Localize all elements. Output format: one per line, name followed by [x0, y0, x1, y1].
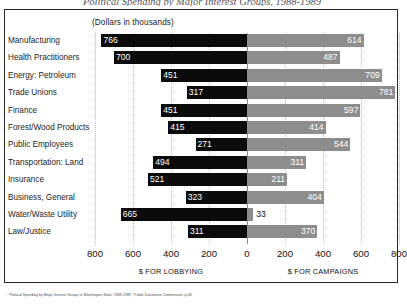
x-tick-label: 200: [201, 248, 217, 260]
campaigns-value: 709: [365, 69, 379, 82]
lobbying-value: 700: [116, 51, 130, 64]
campaigns-bar: 487: [247, 51, 340, 64]
lobbying-bar: 317: [187, 86, 247, 99]
lobbying-value: 311: [190, 225, 204, 238]
campaigns-bar: 544: [247, 138, 350, 151]
lobbying-bar: 700: [114, 51, 247, 64]
footnote: ¹ "Political Spending by Major Interest …: [6, 292, 398, 298]
campaigns-bar: 370: [247, 225, 317, 238]
category-label: Transportation: Land: [8, 156, 102, 169]
lobbying-bar: 665: [121, 208, 247, 221]
category-label: Energy: Petroleum: [8, 69, 102, 82]
lobbying-value: 451: [163, 69, 177, 82]
lobbying-bar: 521: [148, 173, 247, 186]
lobbying-value: 323: [188, 191, 202, 204]
lobbying-bar: 766: [101, 34, 247, 47]
bar-row: 766614: [104, 34, 398, 47]
bar-row: 700487: [104, 51, 398, 64]
category-label: Trade Unions: [8, 86, 102, 99]
lobbying-value: 415: [170, 121, 184, 134]
lobbying-bar: 494: [153, 156, 247, 169]
campaigns-value: 597: [344, 104, 358, 117]
category-label: Water/Waste Utility: [8, 208, 102, 221]
bar-row: 311370: [104, 225, 398, 238]
bar-row: 323404: [104, 191, 398, 204]
lobbying-value: 451: [163, 104, 177, 117]
campaigns-value: 487: [323, 51, 337, 64]
category-label: Insurance: [8, 173, 102, 186]
lobbying-bar: 451: [161, 104, 247, 117]
campaigns-bar: 414: [247, 121, 326, 134]
chart-subtitle: (Dollars in thousands): [92, 18, 174, 27]
campaigns-bar: [247, 208, 253, 221]
x-tick-label: 800: [391, 248, 407, 260]
lobbying-bar: 451: [161, 69, 247, 82]
category-label: Business, General: [8, 191, 102, 204]
category-label: Manufacturing: [8, 34, 102, 47]
bar-row: 451597: [104, 104, 398, 117]
campaigns-value: 781: [379, 86, 393, 99]
lobbying-value: 766: [103, 34, 117, 47]
x-tick-label: 200: [277, 248, 293, 260]
category-label: Forest/Wood Products: [8, 121, 102, 134]
campaigns-value: 414: [309, 121, 323, 134]
lobbying-value: 521: [150, 173, 164, 186]
campaigns-value: 311: [290, 156, 304, 169]
lobbying-value: 665: [123, 208, 137, 221]
x-axis-label-right: $ FOR CAMPAIGNS: [288, 266, 359, 277]
bar-row: 271544: [104, 138, 398, 151]
campaigns-value: 370: [301, 225, 315, 238]
campaigns-value: 33: [256, 208, 266, 221]
bar-row: 415414: [104, 121, 398, 134]
lobbying-value: 271: [198, 138, 212, 151]
category-label: Health Practitioners: [8, 51, 102, 64]
campaigns-bar: 781: [247, 86, 395, 99]
campaigns-value: 614: [347, 34, 361, 47]
bar-row: 66533: [104, 208, 398, 221]
bar-row: 494311: [104, 156, 398, 169]
x-axis-ticks: 8006004002000200400600800: [104, 248, 398, 260]
x-tick-label: 400: [163, 248, 179, 260]
x-tick-label: 400: [315, 248, 331, 260]
bar-row: 317781: [104, 86, 398, 99]
campaigns-value: 544: [334, 138, 348, 151]
gridline: [399, 33, 401, 244]
campaigns-bar: 614: [247, 34, 364, 47]
campaigns-value: 211: [271, 173, 285, 186]
lobbying-value: 494: [155, 156, 169, 169]
campaigns-bar: 404: [247, 191, 324, 204]
lobbying-bar: 311: [188, 225, 247, 238]
chart-title: Political Spending by Major Interest Gro…: [0, 0, 404, 6]
lobbying-bar: 323: [186, 191, 247, 204]
x-tick-label: 800: [87, 248, 103, 260]
bar-row: 451709: [104, 69, 398, 82]
x-tick-label: 600: [353, 248, 369, 260]
lobbying-bar: 415: [168, 121, 247, 134]
plot-area: 7666147004874517093177814515974154142715…: [104, 33, 398, 244]
campaigns-bar: 709: [247, 69, 382, 82]
gridline: [95, 33, 97, 244]
x-tick-label: 0: [244, 248, 249, 260]
campaigns-value: 404: [307, 191, 321, 204]
category-label: Finance: [8, 104, 102, 117]
category-label: Public Employees: [8, 138, 102, 151]
lobbying-bar: 271: [196, 138, 247, 151]
x-tick-label: 600: [125, 248, 141, 260]
category-label: Law/Justice: [8, 225, 102, 238]
campaigns-bar: 597: [247, 104, 360, 117]
campaigns-bar: 211: [247, 173, 287, 186]
campaigns-bar: 311: [247, 156, 306, 169]
bar-row: 521211: [104, 173, 398, 186]
category-axis: ManufacturingHealth PractitionersEnergy:…: [8, 33, 102, 244]
lobbying-value: 317: [189, 86, 203, 99]
x-axis-label-left: $ FOR LOBBYING: [139, 266, 203, 277]
